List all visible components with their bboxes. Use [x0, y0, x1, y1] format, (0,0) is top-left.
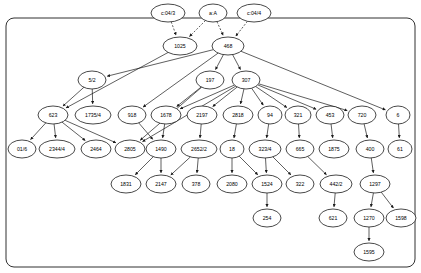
- graph-edge: [299, 124, 300, 138]
- graph-edge: [239, 156, 258, 175]
- graph-edge: [241, 89, 244, 104]
- graph-edge: [171, 22, 176, 35]
- node-outline: [249, 140, 281, 158]
- node-outline: [386, 209, 416, 227]
- graph-node[interactable]: 1875: [319, 140, 349, 158]
- graph-edge: [331, 124, 333, 138]
- graph-node[interactable]: 623: [38, 106, 68, 124]
- node-outline: [285, 106, 311, 124]
- node-outline: [196, 71, 224, 89]
- node-outline: [356, 140, 384, 158]
- graph-edge: [236, 21, 248, 36]
- graph-node[interactable]: 1297: [360, 175, 390, 193]
- node-outline: [118, 106, 146, 124]
- graph-edge: [31, 123, 46, 140]
- graph-node[interactable]: 18: [220, 140, 244, 158]
- graph-node[interactable]: 2652/2: [181, 140, 217, 158]
- graph-edge: [200, 124, 201, 138]
- graph-node[interactable]: 61: [388, 140, 412, 158]
- node-outline: [286, 175, 314, 193]
- node-outline: [286, 140, 314, 158]
- graph-node[interactable]: 6: [386, 106, 410, 124]
- graph-edge: [213, 87, 237, 106]
- graph-node[interactable]: 400: [356, 140, 384, 158]
- graph-node[interactable]: 1595: [354, 243, 384, 261]
- graph-edge: [256, 87, 287, 108]
- graph-edge: [334, 193, 335, 207]
- graph-node[interactable]: 453: [316, 106, 344, 124]
- graph-node[interactable]: 2080: [217, 175, 247, 193]
- node-outline: [81, 140, 111, 158]
- graph-node[interactable]: 322: [286, 175, 314, 193]
- node-outline: [181, 140, 217, 158]
- node-outline: [232, 71, 260, 89]
- graph-node[interactable]: 1678: [151, 106, 181, 124]
- node-outline: [252, 175, 282, 193]
- graph-edge: [308, 157, 327, 175]
- graph-node[interactable]: 1598: [386, 209, 416, 227]
- graph-node[interactable]: 442/2: [320, 175, 352, 193]
- graph-node[interactable]: 321: [285, 106, 311, 124]
- graph-node[interactable]: 1735/4: [75, 106, 111, 124]
- graph-edge: [233, 55, 241, 70]
- graph-node[interactable]: 1025: [163, 37, 197, 55]
- graph-figure: c:04/3a:Ac:04/410254685/21973076231735/4…: [0, 0, 421, 273]
- graph-edge: [217, 22, 223, 36]
- graph-edge: [62, 122, 85, 140]
- graph-node[interactable]: 378: [182, 175, 210, 193]
- graph-canvas: c:04/3a:Ac:04/410254685/21973076231735/4…: [0, 0, 421, 273]
- graph-node[interactable]: 918: [118, 106, 146, 124]
- graph-node[interactable]: 621: [319, 209, 347, 227]
- graph-edge: [54, 124, 56, 138]
- graph-edge: [266, 158, 267, 173]
- node-outline: [187, 106, 217, 124]
- node-outline: [78, 71, 106, 89]
- graph-edge: [177, 87, 201, 106]
- node-outline: [319, 209, 347, 227]
- graph-node[interactable]: 94: [258, 106, 282, 124]
- graph-node[interactable]: 1490: [146, 140, 176, 158]
- node-outline: [199, 4, 227, 22]
- node-outline: [8, 140, 36, 158]
- graph-node[interactable]: 2818: [223, 106, 253, 124]
- graph-edge: [216, 55, 224, 70]
- graph-node[interactable]: 01/6: [8, 140, 36, 158]
- graph-node[interactable]: 720: [348, 106, 376, 124]
- graph-node[interactable]: 1270: [354, 209, 384, 227]
- node-outline: [253, 209, 281, 227]
- graph-node[interactable]: 2147: [146, 175, 176, 193]
- graph-node[interactable]: c:04/3: [151, 4, 185, 22]
- graph-node[interactable]: 2464: [81, 140, 111, 158]
- graph-edge: [63, 87, 84, 106]
- node-outline: [39, 140, 75, 158]
- node-outline: [223, 106, 253, 124]
- graph-node[interactable]: 2805: [115, 140, 145, 158]
- graph-edge: [197, 158, 198, 173]
- graph-edge: [371, 193, 373, 207]
- graph-node[interactable]: c:04/4: [237, 4, 271, 22]
- graph-edge: [234, 124, 236, 138]
- graph-edge: [107, 50, 213, 77]
- graph-edge: [399, 124, 400, 138]
- graph-node[interactable]: 5/2: [78, 71, 106, 89]
- graph-node[interactable]: 307: [232, 71, 260, 89]
- graph-node[interactable]: 1524: [252, 175, 282, 193]
- graph-node[interactable]: 468: [212, 37, 244, 55]
- graph-node[interactable]: 323/4: [249, 140, 281, 158]
- graph-node[interactable]: 1831: [111, 175, 141, 193]
- node-outline: [258, 106, 282, 124]
- graph-node[interactable]: 2344/4: [39, 140, 75, 158]
- node-outline: [38, 106, 68, 124]
- node-outline: [212, 37, 244, 55]
- graph-edge: [364, 124, 367, 138]
- graph-edge: [241, 51, 385, 110]
- graph-node[interactable]: 2197: [187, 106, 217, 124]
- graph-node[interactable]: 254: [253, 209, 281, 227]
- graph-edge: [371, 158, 373, 173]
- graph-edge: [258, 85, 316, 109]
- graph-node[interactable]: 665: [286, 140, 314, 158]
- graph-node[interactable]: 197: [196, 71, 224, 89]
- node-outline: [320, 175, 352, 193]
- graph-node[interactable]: a:A: [199, 4, 227, 22]
- graph-edge: [163, 124, 165, 138]
